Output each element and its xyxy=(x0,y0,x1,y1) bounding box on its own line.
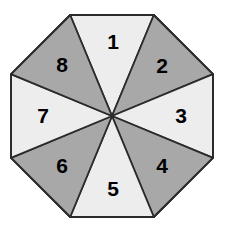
sector-label-7: 7 xyxy=(37,104,49,127)
spinner-svg: 12345678 xyxy=(0,0,226,229)
octagonal-spinner-figure: 12345678 xyxy=(0,0,226,229)
sector-label-1: 1 xyxy=(107,30,119,53)
sector-label-2: 2 xyxy=(156,54,168,77)
sector-label-8: 8 xyxy=(56,53,68,76)
sector-label-5: 5 xyxy=(107,177,119,200)
sector-label-4: 4 xyxy=(156,154,168,177)
sector-label-3: 3 xyxy=(175,104,187,127)
sector-label-6: 6 xyxy=(56,154,68,177)
